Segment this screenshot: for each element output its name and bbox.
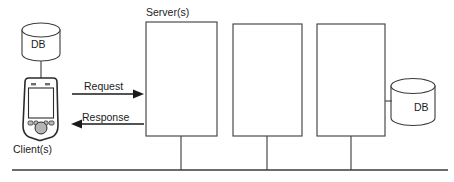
response-arrow-head <box>71 120 82 129</box>
db-left-label: DB <box>31 38 46 50</box>
diagram-canvas <box>0 0 454 182</box>
server-box-3 <box>317 24 385 136</box>
servers-label: Server(s) <box>146 6 189 18</box>
response-label: Response <box>82 111 129 123</box>
pda-button-left-outer <box>28 121 33 125</box>
client-device-node <box>23 78 58 141</box>
request-arrow-head <box>133 90 144 99</box>
clients-label: Client(s) <box>13 143 52 155</box>
pda-button-right-outer <box>49 121 54 125</box>
architecture-diagram: DB DB Server(s) Client(s) Request Respon… <box>0 0 454 182</box>
request-label: Request <box>84 80 123 92</box>
pda-dpad <box>35 122 47 134</box>
server-box-2 <box>233 24 302 136</box>
db-right-label: DB <box>414 101 429 113</box>
pda-screen <box>29 88 54 118</box>
db-left-top-ellipse <box>22 23 60 37</box>
pda-indicator-left <box>31 83 36 85</box>
db-right-top-ellipse <box>391 79 435 94</box>
pda-indicator-right <box>45 83 50 85</box>
server-box-1 <box>146 22 217 136</box>
